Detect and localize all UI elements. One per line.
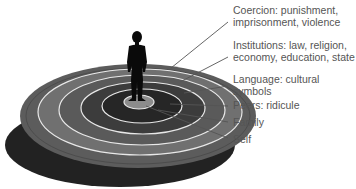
label-institutions: Institutions: law, religion, economy, ed…	[233, 40, 355, 63]
label-line: Family	[233, 117, 264, 129]
label-line: symbols	[233, 86, 319, 98]
label-line: imprisonment, violence	[233, 17, 340, 29]
label-coercion: Coercion: punishment, imprisonment, viol…	[233, 5, 340, 28]
label-line: Language: cultural	[233, 74, 319, 86]
label-peers: Peers: ridicule	[233, 100, 300, 112]
label-family: Family	[233, 117, 264, 129]
label-line: Peers: ridicule	[233, 100, 300, 112]
label-line: Coercion: punishment,	[233, 5, 340, 17]
label-self: Self	[233, 134, 251, 146]
label-line: Institutions: law, religion,	[233, 40, 355, 52]
label-line: economy, education, state	[233, 52, 355, 64]
label-language: Language: cultural symbols	[233, 74, 319, 97]
label-line: Self	[233, 134, 251, 146]
